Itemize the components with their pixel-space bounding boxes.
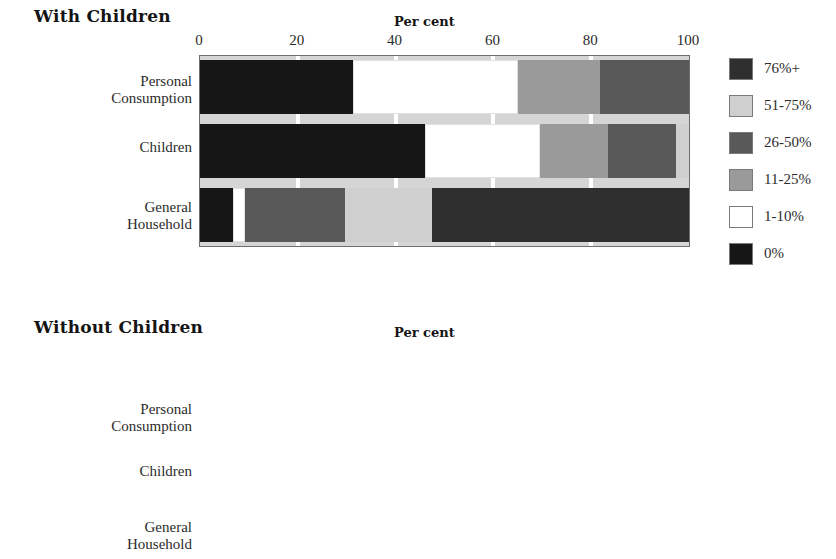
bar-segment: [353, 60, 518, 114]
x-axis-tick-mark: [491, 178, 495, 188]
legend-label: 51-75%: [764, 97, 812, 114]
axis-title-percent-bottom: Per cent: [394, 325, 455, 340]
bar-segment: [600, 60, 689, 114]
panel-title-without-children: Without Children: [34, 317, 203, 337]
x-tick-label-60: 60: [485, 32, 500, 49]
bar-segment: [200, 124, 425, 178]
bar-segment: [608, 124, 676, 178]
x-axis-tick-mark: [296, 114, 300, 124]
x-axis-tick-mark: [296, 56, 300, 60]
x-axis-tick-mark: [394, 114, 398, 124]
x-tick-label-0: 0: [195, 32, 203, 49]
legend-item: 51-75%: [729, 87, 836, 124]
x-axis-tick-mark: [296, 178, 300, 188]
bar-segment: [676, 124, 689, 178]
legend-item: 0%: [729, 235, 836, 272]
legend-label: 0%: [764, 245, 784, 262]
legend-label: 1-10%: [764, 208, 804, 225]
x-tick-label-100: 100: [677, 32, 700, 49]
x-axis-tick-mark: [394, 178, 398, 188]
bar-row: [200, 124, 689, 178]
x-axis-tick-mark: [491, 56, 495, 60]
category-label: General Household: [127, 199, 192, 233]
x-axis-tick-mark: [589, 114, 593, 124]
legend-item: 76%+: [729, 50, 836, 87]
legend-swatch-icon: [729, 243, 753, 265]
bar-row: [200, 60, 689, 114]
bar-segment: [518, 60, 600, 114]
legend-label: 11-25%: [764, 171, 811, 188]
legend-swatch-icon: [729, 95, 753, 117]
x-axis-tick-mark: [296, 242, 300, 246]
x-tick-label-20: 20: [289, 32, 304, 49]
bar-segment: [245, 188, 345, 242]
legend-swatch-icon: [729, 132, 753, 154]
bar-segment: [345, 188, 432, 242]
bar-segment: [200, 60, 353, 114]
legend-swatch-icon: [729, 58, 753, 80]
plot-area-with-children: [199, 55, 690, 247]
panel-title-with-children: With Children: [34, 6, 171, 26]
legend-swatch-icon: [729, 206, 753, 228]
bar-segment: [425, 124, 540, 178]
category-label: Children: [140, 463, 193, 480]
chart-panel-without-children: Without Children Per cent 020406080100: [0, 313, 836, 559]
bar-row: [200, 188, 689, 242]
legend-label: 26-50%: [764, 134, 812, 151]
x-axis-tick-mark: [491, 242, 495, 246]
x-axis-tick-mark: [394, 56, 398, 60]
x-axis-tick-mark: [394, 242, 398, 246]
category-label: General Household: [127, 519, 192, 553]
bar-segment: [432, 188, 689, 242]
chart-panel-with-children: With Children Per cent 020406080100: [0, 0, 836, 300]
x-axis-tick-labels-top: 020406080100: [199, 32, 688, 52]
legend-item: 26-50%: [729, 124, 836, 161]
bar-segment: [200, 188, 233, 242]
x-axis-tick-mark: [589, 178, 593, 188]
legend-item: 1-10%: [729, 198, 836, 235]
bar-segment: [540, 124, 608, 178]
x-axis-tick-mark: [589, 242, 593, 246]
legend-swatch-icon: [729, 169, 753, 191]
legend-item: 11-25%: [729, 161, 836, 198]
x-tick-label-40: 40: [387, 32, 402, 49]
x-axis-tick-mark: [491, 114, 495, 124]
legend-label: 76%+: [764, 60, 800, 77]
category-label: Personal Consumption: [111, 73, 192, 107]
x-tick-label-80: 80: [583, 32, 598, 49]
bar-segment: [233, 188, 245, 242]
x-axis-tick-mark: [589, 56, 593, 60]
category-label: Children: [140, 139, 193, 156]
category-label: Personal Consumption: [111, 401, 192, 435]
chart-legend: 76%+51-75%26-50%11-25%1-10%0%: [729, 50, 836, 272]
axis-title-percent-top: Per cent: [394, 14, 455, 29]
